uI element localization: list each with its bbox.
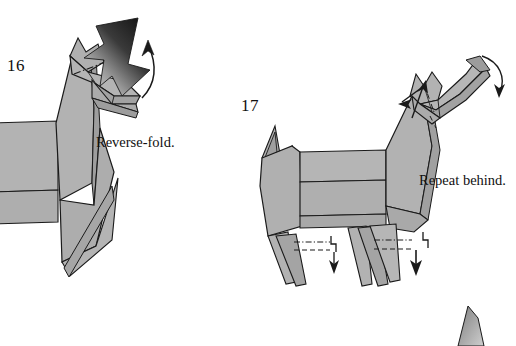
fig17-front-pleat-zigzag [423,232,428,248]
step-number-17: 17 [241,97,259,114]
fig17-hind-pleat-zigzag [331,236,336,252]
step-16-caption: Reverse-fold. [96,135,175,150]
next-figure-corner-preview [458,306,484,346]
fig17-ear-swing-arrow-head [494,84,505,98]
fig17-rump-panel [260,146,302,236]
fig17-body-lower-panel [300,180,386,216]
fig16-body-upper-panel [0,121,58,192]
fig16-body-lower-panel [0,190,58,224]
next-figure-corner-shape [458,306,484,346]
fig16-rotate-arrow-head [142,40,154,56]
figure-17-origami-model [260,56,505,286]
fig17-body-upper-panel [300,150,386,182]
fig16-body-block [0,121,58,224]
step-number-16: 16 [7,57,25,74]
step-17-caption: Repeat behind. [419,173,506,188]
diagram-page: 16 Reverse-fold. 17 Repeat behind. [0,0,516,346]
